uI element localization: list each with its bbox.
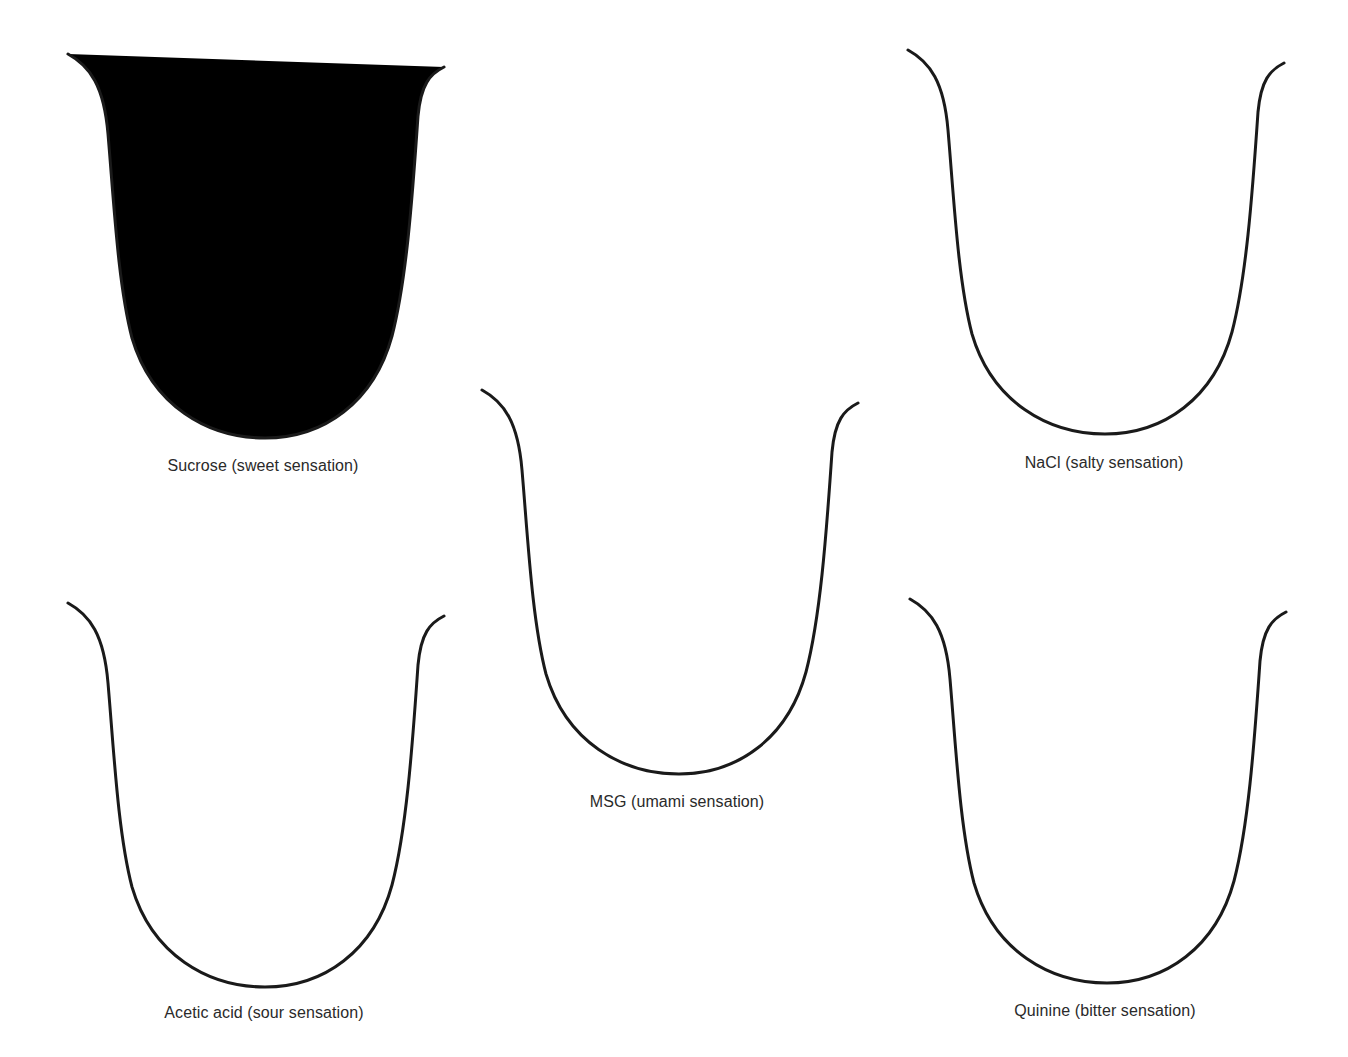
tongue-outline-sucrose	[68, 54, 444, 438]
taste-diagram-canvas	[0, 0, 1348, 1057]
label-msg: MSG (umami sensation)	[590, 793, 765, 811]
tongue-outline-msg	[482, 390, 858, 774]
tongue-outline-nacl	[908, 50, 1284, 434]
label-sucrose: Sucrose (sweet sensation)	[167, 457, 358, 475]
tongue-outline-acetic-acid	[68, 603, 444, 987]
tongue-outline-quinine	[910, 599, 1286, 983]
label-acetic-acid: Acetic acid (sour sensation)	[164, 1004, 363, 1022]
label-quinine: Quinine (bitter sensation)	[1014, 1002, 1195, 1020]
label-nacl: NaCl (salty sensation)	[1025, 454, 1184, 472]
